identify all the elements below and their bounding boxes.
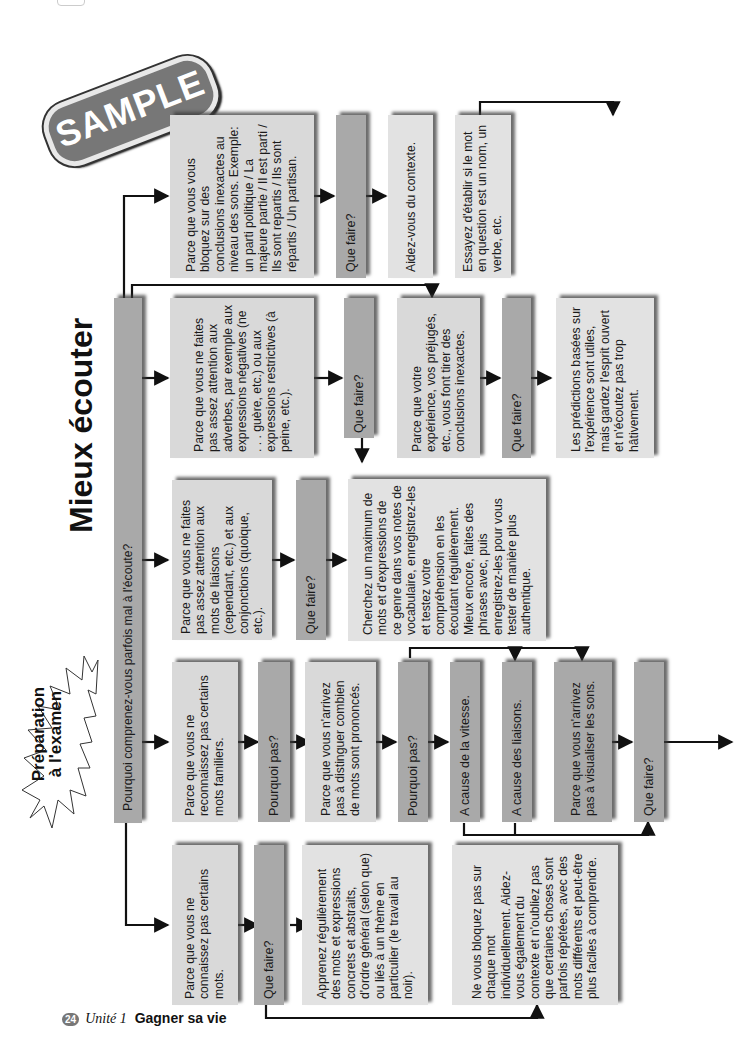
branch2-question1-text: Pourquoi pas? [267, 668, 281, 816]
branch3-question: Que faire? [296, 480, 326, 640]
connector-root-branch5 [132, 285, 432, 298]
branch5-answer: Les prédictions basées sur l'expérience … [556, 298, 654, 458]
branch1-cause: Parce que vous ne connaissez pas certain… [172, 845, 238, 1005]
branch2-question2: Pourquoi pas? [398, 662, 428, 822]
branch2-reason-visualize-text: Parce que vous n'arrivez pas à visualise… [569, 668, 598, 816]
branch2-reason-liaisons-text: A cause des liaisons. [510, 668, 524, 816]
branch5-question: Que faire? [502, 298, 531, 458]
page-corner-mark [57, 0, 85, 6]
branch3-answer: Cherchez un maximum de mots et d'express… [348, 479, 546, 641]
branch2-question1: Pourquoi pas? [258, 662, 290, 822]
connector-root-branch1 [126, 823, 168, 925]
exam-prep-line-1: Préparation [30, 669, 47, 799]
branch6-question-text: Que faire? [344, 122, 358, 272]
exam-prep-line-2: à l'examen [47, 669, 64, 799]
branch1-question-text: Que faire? [262, 851, 276, 999]
branch2-question2-text: Pourquoi pas? [406, 668, 420, 816]
branch3-cause-text: Parce que vous ne faites pas assez atten… [179, 486, 265, 634]
branch1-answer2-text: Ne vous bloquez pas sur chaque mot indiv… [470, 851, 600, 999]
branch3-question-text: Que faire? [304, 486, 318, 634]
branch1-answer2: Ne vous bloquez pas sur chaque mot indiv… [452, 845, 618, 1005]
page-number: 24 [62, 1013, 79, 1026]
branch1-answer1: Apprenez régulièrement des mots et expre… [302, 845, 428, 1005]
branch1-cause-text: Parce que vous ne connaissez pas certain… [183, 851, 226, 999]
branch6-cause-text: Parce que vous vous bloquez sur des conc… [184, 122, 299, 272]
branch2-reason-visualize: Parce que vous n'arrivez pas à visualise… [554, 662, 612, 822]
branch6-answer2: Essayez d'établir si le mot en question … [455, 115, 511, 278]
connector-answer2-offpage [480, 102, 613, 115]
branch3-cause: Parce que vous ne faites pas assez atten… [172, 480, 272, 640]
branch6-answer1-text: Aidez-vous du contexte. [403, 122, 417, 272]
branch6-answer2-text: Essayez d'établir si le mot en question … [461, 122, 504, 272]
page-title: Mieux écouter [61, 303, 101, 533]
branch2-reason-speed-text: A cause de la vitesse. [458, 668, 472, 816]
branch1-question: Que faire? [254, 845, 284, 1005]
branch4-cause-text: Parce que vous ne faites pas assez atten… [192, 304, 293, 452]
branch5-answer-text: Les prédictions basées sur l'expérience … [569, 304, 641, 452]
branch5-cause-text: Parce que votre expérience, vos préjugés… [410, 304, 468, 452]
root-question-box: Pourquoi comprenez-vous parfois mal à l'… [114, 298, 142, 823]
branch2-question3: Que faire? [634, 662, 664, 822]
branch2-cause: Parce que vous ne reconnaissez pas certa… [172, 662, 238, 822]
branch4-cause: Parce que vous ne faites pas assez atten… [170, 298, 314, 458]
branch6-cause: Parce que vous vous bloquez sur des conc… [170, 115, 314, 278]
branch2-cause-text: Parce que vous ne reconnaissez pas certa… [183, 668, 226, 816]
branch5-question-text: Que faire? [509, 304, 523, 452]
branch2-reason-liaisons: A cause des liaisons. [502, 662, 532, 822]
branch6-answer1: Aidez-vous du contexte. [388, 115, 433, 278]
unit-label: Unité 1 [85, 1011, 127, 1026]
connector-root-branch6 [124, 196, 168, 298]
branch1-answer1-text: Apprenez régulièrement des mots et expre… [315, 851, 416, 999]
branch3-answer-text: Cherchez un maximum de mots et d'express… [361, 485, 534, 635]
root-question: Pourquoi comprenez-vous parfois mal à l'… [121, 311, 135, 811]
exam-prep-label: Préparation à l'examen [30, 669, 90, 799]
page-footer: 24Unité 1 Gagner sa vie [62, 1010, 226, 1027]
branch6-question: Que faire? [336, 115, 366, 278]
branch2-question3-text: Que faire? [642, 668, 656, 816]
branch2-reason-speed: A cause de la vitesse. [450, 662, 480, 822]
branch5-cause: Parce que votre expérience, vos préjugés… [397, 298, 480, 458]
branch2-cause2-text: Parce que vous n'arrivez pas à distingue… [319, 668, 362, 816]
chapter-title: Gagner sa vie [135, 1010, 227, 1026]
branch4-question: Que faire? [344, 298, 374, 438]
branch2-cause2: Parce que vous n'arrivez pas à distingue… [305, 662, 376, 822]
branch4-question-text: Que faire? [352, 303, 366, 433]
